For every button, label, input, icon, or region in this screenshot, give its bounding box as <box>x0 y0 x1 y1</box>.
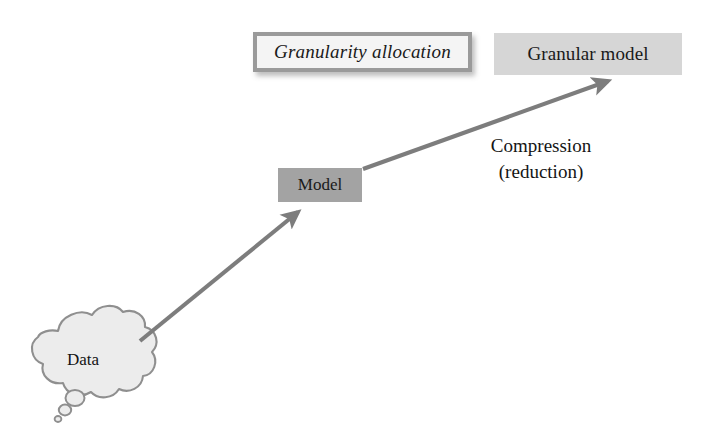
compression-edge-label: Compression (reduction) <box>466 133 616 184</box>
data-to-model-arrow <box>140 212 298 341</box>
diagram-canvas: Data Model Granularity allocation Granul… <box>0 0 704 444</box>
granular-model-label: Granular model <box>527 43 648 65</box>
granularity-allocation-node: Granularity allocation <box>253 32 472 72</box>
model-node-label: Model <box>298 175 342 195</box>
granular-model-node: Granular model <box>494 33 682 75</box>
granularity-allocation-label: Granularity allocation <box>274 41 451 63</box>
data-cloud-label: Data <box>44 350 122 370</box>
model-node: Model <box>278 168 362 202</box>
